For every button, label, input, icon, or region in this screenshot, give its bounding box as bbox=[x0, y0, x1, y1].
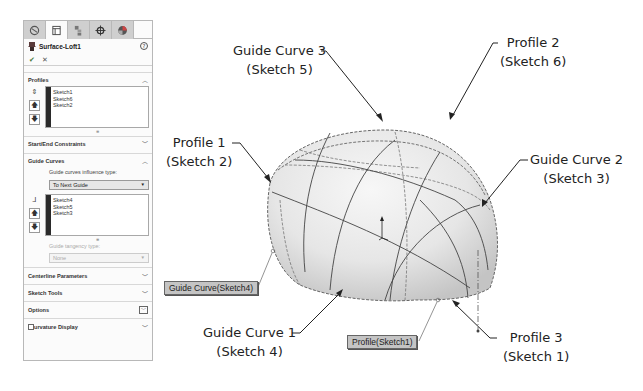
move-down-button[interactable]: 🡇 bbox=[29, 114, 40, 125]
tab-display-manager[interactable] bbox=[112, 21, 134, 39]
guide-curve-select-icon: ⅃ bbox=[29, 194, 40, 205]
callout-guide-curve-3: Guide Curve 3 (Sketch 5) bbox=[233, 41, 326, 79]
chevron-down-icon[interactable]: ﹀ bbox=[142, 323, 148, 332]
chevron-down-icon[interactable]: ﹀ bbox=[142, 139, 148, 148]
property-manager-panel: Surface-Loft1 ? ✔ ✕ Profiles ︿ ⇕ 🡅 🡇 Ske… bbox=[23, 20, 153, 361]
chevron-up-icon[interactable]: ︿ bbox=[142, 156, 148, 165]
cancel-button[interactable]: ✕ bbox=[42, 56, 48, 64]
section-label: urvature Display bbox=[34, 324, 78, 330]
tangency-type-label: Guide tangency type: bbox=[24, 241, 152, 251]
curvature-display-header[interactable]: urvature Display ﹀ bbox=[24, 318, 152, 335]
move-up-button[interactable]: 🡅 bbox=[29, 100, 40, 111]
list-item[interactable]: Sketch1 bbox=[53, 89, 72, 96]
chevron-down-icon[interactable]: ﹀ bbox=[142, 272, 148, 281]
graphics-area[interactable]: Guide Curve 3 (Sketch 5) Profile 2 (Sket… bbox=[160, 0, 643, 391]
callout-profile-2: Profile 2 (Sketch 6) bbox=[500, 33, 566, 71]
callout-profile-1: Profile 1 (Sketch 2) bbox=[166, 133, 232, 171]
ok-button[interactable]: ✔ bbox=[29, 56, 35, 64]
resize-grip-icon[interactable]: ≡ bbox=[96, 129, 99, 134]
property-manager-icon bbox=[51, 25, 62, 36]
move-down-button[interactable]: 🡇 bbox=[29, 222, 40, 233]
dropdown-value: None bbox=[53, 255, 66, 261]
loft-surface-icon bbox=[28, 42, 36, 51]
guide-curves-listbox[interactable]: Sketch4 Sketch5 Sketch3 bbox=[45, 194, 149, 236]
section-label: Sketch Tools bbox=[28, 290, 62, 296]
tab-feature-manager[interactable] bbox=[24, 21, 46, 39]
profiles-listbox[interactable]: Sketch1 Sketch6 Sketch2 bbox=[45, 86, 149, 128]
ok-cancel-row: ✔ ✕ bbox=[24, 54, 152, 66]
centerline-parameters-header[interactable]: Centerline Parameters ﹀ bbox=[24, 267, 152, 284]
section-label: Guide Curves bbox=[28, 158, 64, 164]
list-item[interactable]: Sketch4 bbox=[53, 197, 72, 204]
section-label: Start/End Constraints bbox=[28, 141, 86, 147]
tab-configuration-manager[interactable] bbox=[68, 21, 90, 39]
start-end-constraints-header[interactable]: Start/End Constraints ﹀ bbox=[24, 136, 152, 150]
dropdown-arrow-icon: ▼ bbox=[141, 181, 145, 189]
chevron-down-icon[interactable]: ﹀ bbox=[139, 306, 148, 314]
tangency-type-dropdown[interactable]: None ▼ bbox=[49, 253, 149, 263]
influence-type-dropdown[interactable]: To Next Guide ▼ bbox=[49, 180, 149, 190]
list-item[interactable]: Sketch5 bbox=[53, 204, 72, 211]
callout-guide-curve-2: Guide Curve 2 (Sketch 3) bbox=[530, 150, 623, 188]
sketch-tools-header[interactable]: Sketch Tools ﹀ bbox=[24, 284, 152, 301]
profiles-section-header[interactable]: Profiles ︿ bbox=[24, 72, 152, 86]
manager-tabs bbox=[24, 21, 152, 39]
dimxpert-icon bbox=[95, 25, 106, 36]
display-manager-icon bbox=[117, 25, 128, 36]
callout-profile-3: Profile 3 (Sketch 1) bbox=[503, 328, 569, 366]
guide-curves-list-row: ⅃ 🡅 🡇 Sketch4 Sketch5 Sketch3 ≡ bbox=[24, 194, 152, 238]
dropdown-value: To Next Guide bbox=[53, 182, 88, 188]
profile-tag[interactable]: Profile(Sketch1) bbox=[347, 335, 417, 349]
list-item[interactable]: Sketch2 bbox=[53, 102, 72, 109]
tab-dimxpert[interactable] bbox=[90, 21, 112, 39]
list-item[interactable]: Sketch3 bbox=[53, 210, 72, 217]
section-label: Centerline Parameters bbox=[28, 273, 87, 279]
guide-curve-tag[interactable]: Guide Curve(Sketch4) bbox=[164, 281, 258, 295]
callout-guide-curve-1: Guide Curve 1 (Sketch 4) bbox=[203, 323, 296, 361]
profiles-list-row: ⇕ 🡅 🡇 Sketch1 Sketch6 Sketch2 ≡ bbox=[24, 86, 152, 130]
section-label: Profiles bbox=[28, 77, 49, 83]
list-item[interactable]: Sketch6 bbox=[53, 96, 72, 103]
resize-grip-icon[interactable]: ≡ bbox=[96, 237, 99, 242]
feature-title-row: Surface-Loft1 ? bbox=[24, 39, 152, 54]
chevron-up-icon[interactable]: ︿ bbox=[142, 75, 148, 84]
help-icon[interactable]: ? bbox=[140, 42, 148, 50]
configuration-manager-icon bbox=[73, 25, 84, 36]
guide-curves-section-header[interactable]: Guide Curves ︿ bbox=[24, 153, 152, 167]
chevron-down-icon[interactable]: ﹀ bbox=[142, 289, 148, 298]
dropdown-arrow-icon: ▼ bbox=[141, 254, 145, 262]
section-label: Options bbox=[28, 307, 49, 313]
influence-type-label: Guide curves influence type: bbox=[24, 167, 152, 177]
feature-title: Surface-Loft1 bbox=[39, 43, 81, 50]
feature-manager-icon bbox=[29, 25, 40, 36]
profile-select-icon: ⇕ bbox=[29, 86, 40, 97]
move-up-button[interactable]: 🡅 bbox=[29, 208, 40, 219]
options-header[interactable]: Options ﹀ bbox=[24, 301, 152, 318]
tab-property-manager[interactable] bbox=[46, 21, 68, 39]
